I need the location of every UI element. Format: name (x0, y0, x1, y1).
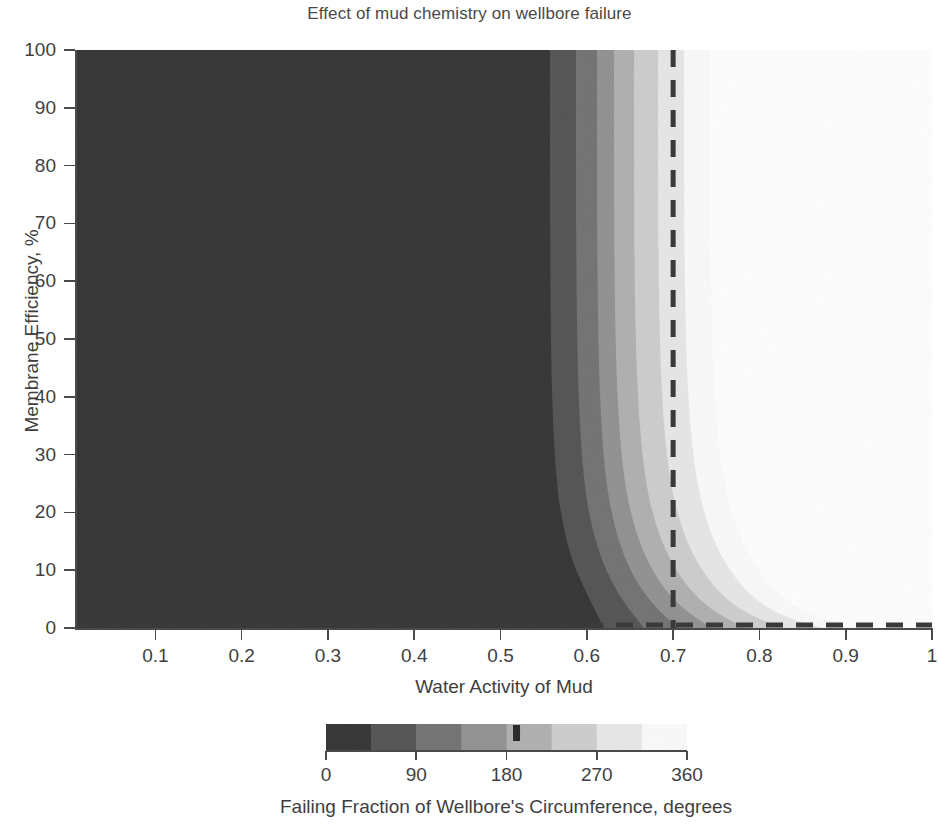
x-axis-tick (672, 629, 674, 640)
x-axis-tick (845, 629, 847, 640)
heatmap-image (76, 50, 932, 628)
x-axis-tick-label: 0.5 (466, 645, 536, 667)
y-axis-tick (64, 338, 75, 340)
colorbar-band (597, 724, 643, 750)
y-axis-tick (64, 280, 75, 282)
colorbar-tick-label: 90 (384, 764, 448, 786)
colorbar-tick (506, 751, 508, 760)
x-axis-tick-label: 0.6 (552, 645, 622, 667)
plot-area (76, 50, 932, 628)
colorbar-band (552, 724, 598, 750)
y-axis-tick (64, 627, 75, 629)
y-axis-tick-label: 100 (0, 39, 56, 61)
y-axis-tick-label: 0 (0, 617, 56, 639)
colorbar-band (371, 724, 417, 750)
colorbar-tick (325, 751, 327, 760)
y-axis-tick-label: 20 (0, 501, 56, 523)
colorbar-tick (415, 751, 417, 760)
colorbar-tick-label: 0 (294, 764, 358, 786)
x-axis-tick (413, 629, 415, 640)
colorbar-gradient (326, 724, 687, 750)
x-axis-tick-label: 1 (897, 645, 939, 667)
x-axis-tick-label: 0.1 (120, 645, 190, 667)
x-axis-tick (500, 629, 502, 640)
x-axis-tick-label: 0.7 (638, 645, 708, 667)
colorbar-tick-label: 360 (655, 764, 719, 786)
x-axis-tick-label: 0.2 (207, 645, 277, 667)
colorbar-band (416, 724, 462, 750)
colorbar-tick-label: 270 (565, 764, 629, 786)
y-axis-tick (64, 165, 75, 167)
y-axis-tick (64, 569, 75, 571)
figure-canvas: Effect of mud chemistry on wellbore fail… (0, 0, 939, 829)
colorbar-marker (513, 725, 520, 741)
x-axis-tick (327, 629, 329, 640)
colorbar-band (642, 724, 687, 750)
x-axis-tick-label: 0.3 (293, 645, 363, 667)
y-axis-title: Membrane Efficiency, % (21, 201, 43, 461)
y-axis-tick (64, 107, 75, 109)
y-axis-tick-label: 90 (0, 97, 56, 119)
y-axis-line (75, 50, 77, 629)
colorbar: 090180270360 Failing Fraction of Wellbor… (326, 724, 687, 829)
x-axis-line (75, 628, 933, 630)
y-axis-tick-label: 10 (0, 559, 56, 581)
y-axis-tick (64, 49, 75, 51)
x-axis-tick (241, 629, 243, 640)
x-axis-tick (759, 629, 761, 640)
colorbar-band (326, 724, 372, 750)
x-axis-tick-label: 0.8 (724, 645, 794, 667)
y-axis-tick (64, 512, 75, 514)
colorbar-tick-label: 180 (475, 764, 539, 786)
x-axis-tick-label: 0.9 (811, 645, 881, 667)
x-axis-tick (586, 629, 588, 640)
colorbar-tick (686, 751, 688, 760)
x-axis-title: Water Activity of Mud (76, 676, 932, 698)
colorbar-tick (596, 751, 598, 760)
y-axis-tick (64, 454, 75, 456)
y-axis-tick (64, 396, 75, 398)
x-axis-tick (931, 629, 933, 640)
x-axis-tick-label: 0.4 (379, 645, 449, 667)
y-axis-tick-label: 80 (0, 155, 56, 177)
x-axis-tick (155, 629, 157, 640)
y-axis-tick (64, 223, 75, 225)
colorbar-band (461, 724, 507, 750)
chart-title: Effect of mud chemistry on wellbore fail… (0, 4, 939, 24)
colorbar-title: Failing Fraction of Wellbore's Circumfer… (106, 796, 906, 818)
